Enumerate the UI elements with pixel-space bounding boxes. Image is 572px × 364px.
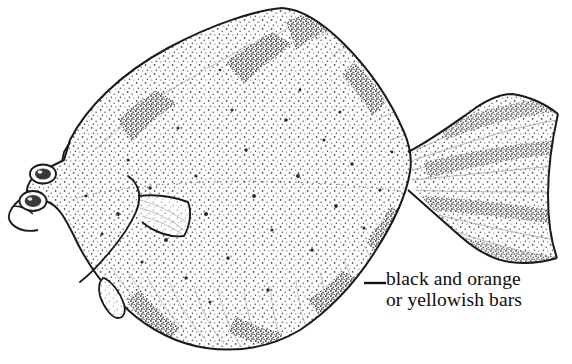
annotation-line-1: black and orange (386, 268, 522, 289)
annotation-label: black and orange or yellowish bars (386, 268, 522, 310)
lower-eye (20, 191, 47, 211)
figure-canvas: black and orange or yellowish bars (0, 0, 572, 364)
upper-eye (30, 165, 56, 184)
caudal-fin (400, 80, 572, 280)
annotation-line-2: or yellowish bars (386, 289, 522, 310)
